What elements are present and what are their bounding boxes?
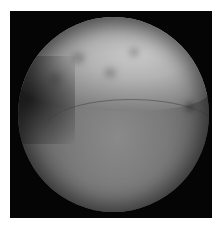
endoscopic-view [18,17,209,212]
vignette [18,17,209,212]
